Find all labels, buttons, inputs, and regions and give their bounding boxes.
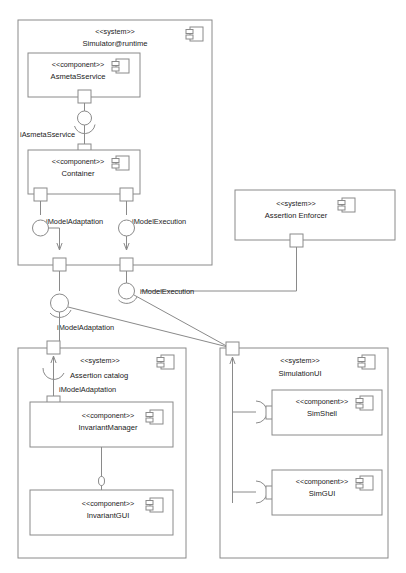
ball-iasmetas-service[interactable] (78, 111, 92, 125)
ball-imodelexecution-container[interactable] (119, 220, 135, 236)
component-sim-gui-stereotype: <<component>> (296, 477, 348, 486)
component-sim-shell[interactable]: <<component>> SimShell (272, 390, 382, 435)
port-container-model-execution[interactable] (120, 188, 133, 201)
system-simulator-runtime[interactable]: <<system>> Simulator@runtime <<component… (18, 20, 212, 271)
component-invariant-manager-name: InvariantManager (78, 423, 138, 432)
interface-label-imodelexecution-container: iModelExecution (132, 217, 186, 226)
port-simulation-ui-required[interactable] (226, 342, 239, 355)
component-sim-shell-stereotype: <<component>> (296, 397, 348, 406)
component-sim-shell-name: SimShell (307, 409, 337, 418)
component-icon (146, 498, 163, 512)
port-asmetas-service-provided[interactable] (78, 90, 91, 103)
interface-label-imodelexecution-outer: iModelExecution (140, 287, 194, 296)
component-icon (186, 27, 203, 41)
ball-invariantgui-link (99, 477, 105, 486)
interface-label-imodeladaptation-catalog: iModelAdaptation (59, 385, 116, 394)
system-assertion-enforcer-stereotype: <<system>> (276, 199, 316, 208)
port-simulator-execution[interactable] (120, 258, 133, 271)
component-container-name: Container (62, 169, 95, 178)
component-icon (338, 198, 355, 212)
interface-label-imodeladaptation-container: iModelAdaptation (46, 217, 103, 226)
interface-label-iasmetas-service: iAsmetaSservice (20, 130, 75, 139)
port-container-model-adaptation[interactable] (34, 188, 47, 201)
component-invariant-gui-stereotype: <<component>> (82, 499, 134, 508)
component-icon (358, 355, 375, 369)
ball-imodeladaptation-container[interactable] (33, 220, 49, 236)
system-assertion-catalog[interactable]: <<system>> Assertion catalog iModelAdapt… (18, 341, 186, 558)
system-simulator-runtime-stereotype: <<system>> (95, 27, 135, 36)
port-assertion-catalog-required[interactable] (47, 341, 60, 354)
system-assertion-enforcer[interactable]: <<system>> Assertion Enforcer (235, 190, 395, 247)
component-icon (356, 476, 373, 490)
component-sim-gui[interactable]: <<component>> SimGUI (272, 470, 382, 515)
port-assertion-enforcer-required[interactable] (290, 234, 303, 247)
component-asmetas-service-stereotype: <<component>> (52, 60, 104, 69)
uml-component-diagram: <<system>> Simulator@runtime <<component… (0, 0, 406, 573)
system-simulation-ui-stereotype: <<system>> (280, 356, 320, 365)
system-simulation-ui-frame (220, 348, 388, 558)
system-simulator-runtime-name: Simulator@runtime (82, 39, 147, 48)
component-icon (356, 396, 373, 410)
component-invariant-gui[interactable]: <<component>> InvariantGUI (30, 490, 173, 535)
port-simulator-adaptation[interactable] (53, 258, 66, 271)
component-icon (157, 355, 174, 369)
system-assertion-enforcer-name: Assertion Enforcer (265, 211, 328, 220)
component-invariant-gui-name: InvariantGUI (87, 511, 130, 520)
system-assertion-catalog-name: Assertion catalog (70, 371, 128, 380)
system-assertion-catalog-stereotype: <<system>> (80, 356, 120, 365)
component-icon (146, 410, 163, 424)
interface-label-imodeladaptation-outer: iModelAdaptation (57, 323, 114, 332)
connector-execution-to-simulationui (134, 295, 232, 349)
component-icon (112, 156, 129, 170)
diagram-canvas: <<system>> Simulator@runtime <<component… (0, 0, 406, 573)
system-simulation-ui[interactable]: <<system>> SimulationUI <<component>> Si… (220, 342, 388, 558)
ball-imodelexecution-outer[interactable] (119, 283, 135, 299)
component-asmetas-service-name: AsmetaSservice (51, 72, 106, 81)
component-container-stereotype: <<component>> (52, 157, 104, 166)
ball-imodeladaptation-outer[interactable] (51, 294, 69, 312)
component-container[interactable]: <<component>> Container (28, 150, 140, 194)
component-icon (112, 59, 129, 73)
component-sim-gui-name: SimGUI (309, 489, 336, 498)
system-simulation-ui-name: SimulationUI (278, 369, 321, 378)
component-invariant-manager-stereotype: <<component>> (82, 411, 134, 420)
component-invariant-manager[interactable]: <<component>> InvariantManager (30, 402, 173, 447)
